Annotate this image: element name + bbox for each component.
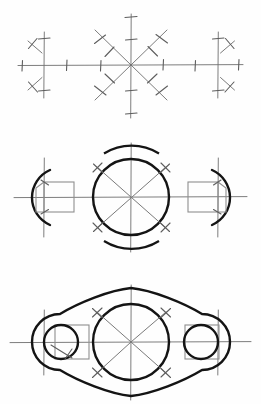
stage-2-group (14, 143, 247, 252)
tick (105, 47, 114, 57)
tick (29, 82, 38, 92)
stage-3-group (10, 285, 251, 400)
tick (94, 164, 103, 173)
tick (39, 90, 51, 91)
tick (125, 17, 137, 18)
stage2-bottom-arc (104, 241, 159, 249)
tick (239, 60, 240, 71)
tick (148, 47, 158, 57)
tick (163, 60, 164, 71)
stage-1-group (18, 14, 243, 118)
stage1-middle-vertical-centerline (131, 14, 132, 118)
tick (101, 61, 102, 72)
tick (67, 60, 68, 71)
tick (39, 38, 51, 39)
tick (126, 90, 138, 91)
tick (195, 61, 196, 72)
tick (126, 39, 138, 40)
tick (22, 61, 23, 72)
stage2-right-arc (212, 170, 230, 225)
tick (148, 74, 158, 83)
tick (105, 74, 115, 83)
stage2-left-square-side (36, 182, 44, 212)
tick (213, 38, 225, 39)
tick (95, 35, 106, 44)
drawing-sheet (0, 0, 261, 404)
tick (225, 82, 234, 92)
tick (51, 345, 72, 358)
tick (161, 164, 170, 173)
stage3-diagonal-ne (131, 312, 166, 342)
construction-drawing-canvas (0, 0, 261, 404)
stage1-right-diagonal-marks (221, 39, 235, 93)
stage1-left-vertical-centerline (44, 32, 45, 98)
stage3-diagonal-nw (97, 312, 131, 342)
stage1-right-vertical-centerline (218, 32, 219, 98)
tick (213, 90, 225, 91)
tick (126, 113, 138, 114)
